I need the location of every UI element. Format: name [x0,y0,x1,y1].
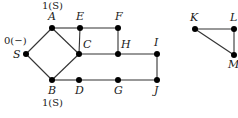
edge-b-c [52,54,79,80]
graph-canvas: S0(−)A1(S)EFCHIB1(S)DGJKLM [0,0,238,118]
node-annotation-s: 0(−) [4,35,27,46]
node-e [77,25,83,31]
node-g [115,77,121,83]
node-label-b: B [47,84,56,97]
node-label-f: F [114,10,123,23]
node-k [192,26,198,32]
node-label-g: G [114,84,123,97]
node-d [76,77,82,83]
node-annotation-a: 1(S) [42,0,63,11]
node-i [154,51,160,57]
node-label-e: E [75,10,84,23]
node-label-d: D [74,84,84,97]
node-label-i: I [153,36,159,49]
node-annotation-b: 1(S) [42,97,63,108]
graph-diagram: S0(−)A1(S)EFCHIB1(S)DGJKLM [0,0,238,118]
node-a [49,25,55,31]
node-h [115,51,121,57]
node-label-k: K [189,11,199,24]
node-j [154,77,160,83]
node-b [49,77,55,83]
node-label-a: A [47,10,56,23]
node-label-l: L [229,11,237,24]
edges-layer [26,28,234,80]
node-label-s: S [13,48,21,61]
edge-k-m [195,29,234,55]
edge-e-c [79,28,80,54]
node-s [23,51,29,57]
node-label-j: J [152,84,159,97]
node-label-m: M [227,58,238,71]
edge-s-a [26,28,52,54]
edge-a-c [52,28,79,54]
node-c [76,51,82,57]
node-f [115,25,121,31]
node-label-c: C [83,38,92,51]
node-label-h: H [120,38,131,51]
edge-s-b [26,54,52,80]
node-l [231,26,237,32]
